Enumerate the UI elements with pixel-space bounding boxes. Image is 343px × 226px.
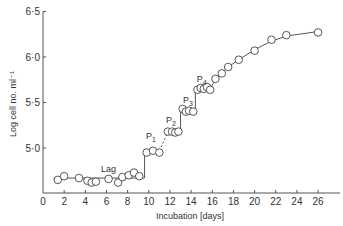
x-tick-label: 26 [313, 196, 325, 207]
data-point-circle [235, 56, 243, 64]
annotation-label: P2 [166, 115, 176, 127]
data-points [54, 29, 322, 187]
y-tick-label: 6·5 [26, 6, 41, 17]
y-tick-label: 6·0 [26, 52, 41, 63]
x-tick-label: 10 [143, 196, 155, 207]
y-tick-label: 5·5 [26, 97, 41, 108]
data-point-circle [135, 172, 143, 180]
data-point-circle [314, 29, 322, 37]
annotation-label: P1 [146, 131, 156, 143]
x-tick-label: 0 [40, 196, 46, 207]
annotation-label: Lag [101, 164, 116, 174]
annotation-label: P4 [197, 74, 207, 86]
x-tick-label: 24 [291, 196, 303, 207]
x-tick-label: 2 [61, 196, 67, 207]
x-tick-label: 8 [125, 196, 131, 207]
data-point-circle [60, 172, 68, 180]
y-tick-label: 5·0 [26, 143, 41, 154]
data-point-circle [283, 31, 291, 39]
x-tick-label: 4 [83, 196, 89, 207]
data-point-circle [189, 108, 197, 116]
y-axis-label: Log cell no. ml⁻¹ [8, 71, 18, 137]
x-tick-label: 22 [270, 196, 282, 207]
x-tick-label: 20 [249, 196, 261, 207]
x-tick-label: 6 [104, 196, 110, 207]
data-point-circle [251, 47, 259, 55]
data-point-circle [175, 128, 183, 136]
fit-line-growth_curve [210, 32, 318, 88]
data-point-circle [206, 86, 214, 94]
x-tick-label: 18 [228, 196, 240, 207]
data-point-circle [212, 75, 220, 83]
data-point-circle [156, 149, 164, 157]
x-axis-label: Incubation [days] [156, 211, 224, 221]
data-point-circle [268, 36, 276, 44]
growth-curve-chart: 024681012141618202224265·05·56·06·5 LagP… [0, 0, 343, 226]
x-tick-label: 14 [186, 196, 198, 207]
data-point-circle [105, 175, 113, 183]
data-point-circle [92, 178, 100, 186]
data-point-circle [224, 63, 232, 71]
x-tick-label: 16 [207, 196, 219, 207]
data-point-circle [75, 174, 83, 182]
x-tick-label: 12 [164, 196, 176, 207]
data-point-circle [218, 70, 226, 78]
annotations: LagP1P2P3P4 [101, 74, 207, 174]
